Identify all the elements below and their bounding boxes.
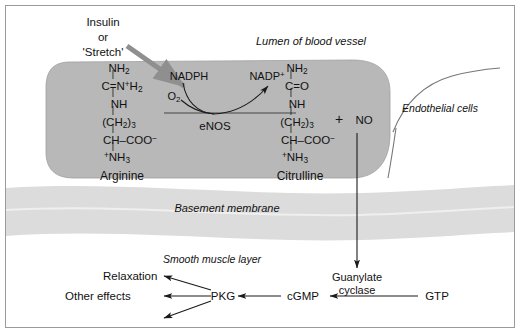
arginine-name-label: Arginine [100, 170, 144, 183]
endothelial-cells-label: Endothelial cells [402, 103, 478, 114]
nadph-label: NADPH [170, 71, 209, 83]
oxygen-label: O2 [168, 91, 181, 104]
enos-enzyme-label: eNOS [199, 120, 230, 132]
arginine-line-4: (CH2)3 [102, 116, 136, 131]
gtp-label: GTP [425, 290, 449, 302]
arginine-bond-4: | [112, 124, 114, 133]
arginine-bond-2: | [112, 88, 114, 97]
arginine-bond-1: | [112, 70, 114, 79]
nitric-oxide-label: NO [355, 114, 372, 126]
pkg-to-other-effects-arrow-2 [164, 301, 211, 318]
lumen-label: Lumen of blood vessel [256, 36, 366, 48]
citrulline-name-label: Citrulline [277, 170, 324, 183]
arginine-line-2: C=N+H2 [101, 80, 142, 95]
diagram-canvas [0, 0, 522, 334]
relaxation-label: Relaxation [103, 270, 157, 282]
smooth-muscle-layer-label: Smooth muscle layer [163, 254, 261, 265]
citrulline-bond-1: | [290, 70, 292, 79]
citrulline-line-6: +NH3 [282, 151, 308, 166]
plus-sign: + [335, 112, 343, 127]
stimulus-label-stretch: 'Stretch' [83, 46, 124, 58]
arginine-bond-3: | [112, 106, 114, 115]
pkg-to-relaxation-arrow [164, 276, 211, 290]
citrulline-line-4: (CH2)3 [280, 116, 314, 131]
stimulus-label-insulin: Insulin [86, 16, 119, 28]
guanylate-cyclase-label-line1: Guanylate [332, 272, 382, 284]
cell-boundary-curve-upper [393, 68, 500, 132]
basement-membrane-label: Basement membrane [174, 203, 279, 215]
arginine-line-6: +NH3 [104, 151, 130, 166]
citrulline-line-2: C=O [285, 80, 309, 92]
pkg-label: PKG [211, 290, 235, 302]
citrulline-bond-3: | [290, 106, 292, 115]
nitric-oxide-pathway-figure: Insulin or 'Stretch' Lumen of blood vess… [0, 0, 522, 334]
cgmp-label: cGMP [287, 290, 319, 302]
other-effects-label: Other effects [65, 290, 131, 302]
citrulline-bond-2: | [290, 88, 292, 97]
guanylate-cyclase-label-line2: cyclase [339, 285, 376, 297]
stimulus-label-or: or [98, 31, 108, 43]
citrulline-bond-4: | [290, 124, 292, 133]
nadp-plus-label: NADP+ [249, 71, 284, 83]
